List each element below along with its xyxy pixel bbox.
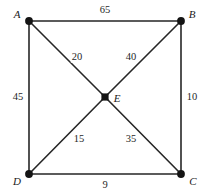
graph-vertex-e [101,93,108,100]
graph-canvas [0,0,205,196]
graph-vertex-a [25,17,33,25]
graph-diagram: ABCDE654510920401535 [0,0,205,196]
edge-weight-ae: 20 [71,52,84,63]
graph-edge-de [29,97,105,174]
graph-vertex-c [177,170,185,178]
graph-edge-ae [29,21,105,97]
graph-vertex-d [25,170,33,178]
vertex-label-b: B [189,9,196,20]
edge-weight-bc: 10 [186,92,199,103]
graph-edge-ce [105,97,181,174]
graph-vertex-b [177,17,185,25]
vertex-label-a: A [14,9,21,20]
edge-weight-ab: 65 [99,5,112,16]
graph-edge-be [105,21,181,97]
edge-weight-de: 15 [73,134,86,145]
vertex-label-c: C [189,176,196,187]
vertex-label-d: D [13,176,21,187]
edge-weight-ce: 35 [125,134,138,145]
edge-weight-be: 40 [125,52,138,63]
edge-weight-dc: 9 [101,180,108,191]
vertex-label-e: E [114,93,121,104]
edge-weight-ad: 45 [12,92,25,103]
